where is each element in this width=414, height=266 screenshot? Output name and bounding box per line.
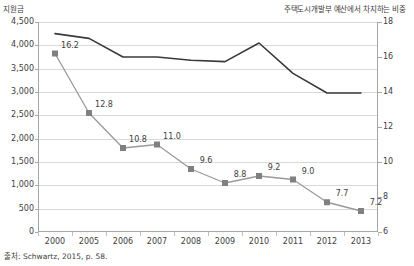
left-tick-label: 1,500 [2, 158, 34, 166]
share-value-label: 9.0 [302, 166, 315, 175]
share-value-label: 11.0 [163, 131, 181, 140]
right-axis-ticks: 681012141618 [383, 22, 411, 232]
left-tick-label: 1,000 [2, 181, 34, 189]
share-marker [324, 199, 330, 205]
right-tick-label: 18 [383, 18, 403, 26]
x-axis-labels: 2000200520062007200820092010201120122013 [38, 234, 378, 248]
right-tick-mark [378, 92, 382, 93]
right-tick-label: 12 [383, 123, 403, 131]
funding-line [55, 34, 361, 93]
right-tick-mark [378, 57, 382, 58]
x-axis-label: 2005 [79, 237, 99, 246]
left-tick-label: 3,000 [2, 88, 34, 96]
x-axis-label: 2011 [283, 237, 303, 246]
share-value-label: 7.7 [336, 189, 349, 198]
source-note: 출처: Schwartz, 2015, p. 58. [4, 250, 107, 261]
x-axis-label: 2009 [215, 237, 235, 246]
left-axis-ticks: 05001,0001,5002,0002,5003,0003,5004,0004… [2, 22, 34, 232]
share-marker [256, 173, 262, 179]
x-axis-label: 2010 [249, 237, 269, 246]
series-layer [38, 22, 378, 232]
left-tick-label: 500 [2, 205, 34, 213]
share-value-label: 10.8 [129, 135, 147, 144]
share-value-label: 8.8 [234, 170, 247, 179]
x-axis-label: 2008 [181, 237, 201, 246]
share-value-label: 16.2 [61, 40, 79, 49]
share-marker [290, 177, 296, 183]
left-tick-label: 3,500 [2, 65, 34, 73]
share-marker [358, 208, 364, 214]
right-axis-title: 주택도시개발부 예산에서 차지하는 비중 [284, 3, 406, 14]
left-tick-label: 0 [2, 228, 34, 236]
x-axis-label: 2000 [45, 237, 65, 246]
share-marker [52, 51, 58, 57]
left-tick-label: 4,000 [2, 41, 34, 49]
right-tick-label: 10 [383, 158, 403, 166]
right-tick-mark [378, 22, 382, 23]
right-tick-label: 16 [383, 53, 403, 61]
x-axis-label: 2013 [351, 237, 371, 246]
share-marker [86, 110, 92, 116]
x-tick-mark [378, 232, 379, 236]
share-line [55, 54, 361, 212]
share-marker [154, 142, 160, 148]
left-tick-label: 4,500 [2, 18, 34, 26]
x-axis-label: 2007 [147, 237, 167, 246]
x-axis-label: 2012 [317, 237, 337, 246]
share-marker [120, 145, 126, 151]
share-marker [188, 166, 194, 172]
x-axis-label: 2006 [113, 237, 133, 246]
share-value-label: 7.2 [370, 198, 383, 207]
right-tick-label: 6 [383, 228, 403, 236]
left-axis-title: 지원금 [3, 3, 23, 14]
share-marker [222, 180, 228, 186]
chart-figure: 지원금 주택도시개발부 예산에서 차지하는 비중 05001,0001,5002… [0, 0, 414, 266]
share-value-label: 9.6 [200, 156, 213, 165]
right-tick-mark [378, 127, 382, 128]
share-value-label: 9.2 [268, 163, 281, 172]
share-value-label: 12.8 [95, 100, 113, 109]
right-tick-mark [378, 162, 382, 163]
right-tick-label: 8 [383, 193, 403, 201]
share-markers [52, 51, 364, 215]
left-tick-label: 2,000 [2, 135, 34, 143]
right-tick-label: 14 [383, 88, 403, 96]
left-tick-label: 2,500 [2, 111, 34, 119]
